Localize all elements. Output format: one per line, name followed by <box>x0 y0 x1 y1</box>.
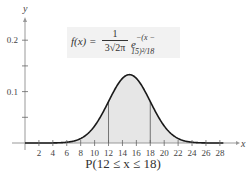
y-tick-label-0.2: 0.2 <box>7 35 18 45</box>
y-tick-label-0.1: 0.1 <box>7 87 18 97</box>
y-axis-arrow-icon <box>23 17 27 22</box>
probability-caption: P(12 ≤ x ≤ 18) <box>0 156 246 172</box>
x-axis-arrow-icon <box>236 141 240 145</box>
formula-exponential: e−(x − 15)²/18 <box>131 36 180 63</box>
y-axis-label: y <box>22 3 28 14</box>
formula-fraction: 1 3√2π <box>102 28 128 54</box>
x-axis-label: x <box>240 138 246 149</box>
formula-numerator: 1 <box>102 28 128 41</box>
formula-lhs: f(x) = <box>71 35 96 47</box>
formula-denominator: 3√2π <box>102 41 128 54</box>
formula-box: f(x) = 1 3√2π e−(x − 15)²/18 <box>67 27 180 58</box>
area-under-curve <box>25 75 224 143</box>
